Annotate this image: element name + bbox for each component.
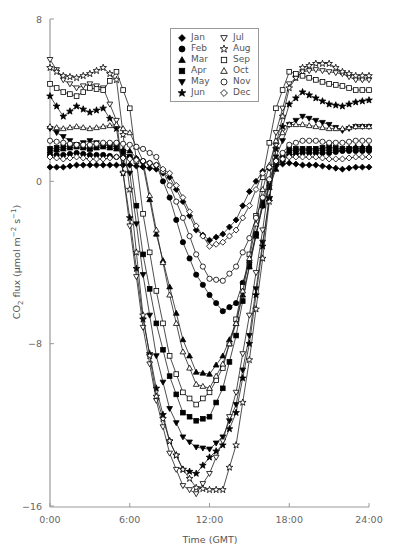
legend-item-sep: Sep xyxy=(219,54,251,65)
triangle-open-icon xyxy=(219,66,229,76)
series-jan xyxy=(47,160,372,243)
legend-item-aug: Aug xyxy=(219,43,251,54)
legend-item-oct: Oct xyxy=(219,65,251,76)
legend-item-dec: Dec xyxy=(219,87,251,98)
triangle-down-open-icon xyxy=(219,33,229,43)
square-filled-icon xyxy=(177,66,187,76)
x-axis: 0:006:0012:0018:0024:00 xyxy=(39,503,382,525)
circle-filled-icon xyxy=(177,44,187,54)
triangle-down-filled-icon xyxy=(177,77,187,87)
legend-label: Oct xyxy=(233,65,249,76)
circle-open-icon xyxy=(219,77,229,87)
legend-item-jun: Jun xyxy=(177,87,210,98)
legend-label: Jul xyxy=(233,32,244,43)
series-apr xyxy=(48,142,372,423)
legend-label: Aug xyxy=(233,43,251,54)
legend-item-feb: Feb xyxy=(177,43,210,54)
x-tick-label: 18:00 xyxy=(276,514,303,525)
legend-label: Mar xyxy=(191,54,208,65)
legend-label: Feb xyxy=(191,43,207,54)
legend-item-jan: Jan xyxy=(177,32,210,43)
x-tick-label: 0:00 xyxy=(39,514,60,525)
legend-item-jul: Jul xyxy=(219,32,251,43)
legend-column-1: JanFebMarAprMayJun xyxy=(177,32,210,98)
y-axis: 80−8−16 xyxy=(22,14,54,512)
legend-label: Jan xyxy=(191,32,205,43)
diamond-filled-icon xyxy=(177,33,187,43)
series-oct xyxy=(47,122,372,391)
square-open-icon xyxy=(219,55,229,65)
diamond-open-icon xyxy=(219,88,229,98)
legend-item-may: May xyxy=(177,76,210,87)
legend: JanFebMarAprMayJun JulAugSepOctNovDec xyxy=(170,28,259,102)
series-mar xyxy=(47,144,372,376)
x-tick-label: 12:00 xyxy=(196,514,223,525)
x-tick-label: 6:00 xyxy=(119,514,140,525)
legend-item-apr: Apr xyxy=(177,65,210,76)
legend-label: May xyxy=(191,76,210,87)
legend-label: Apr xyxy=(191,65,207,76)
triangle-filled-icon xyxy=(177,55,187,65)
legend-item-mar: Mar xyxy=(177,54,210,65)
plot-series xyxy=(47,58,373,497)
y-axis-title: CO2 flux (µmol m−2 s−1) xyxy=(10,205,25,319)
legend-label: Sep xyxy=(233,54,250,65)
x-tick-label: 24:00 xyxy=(355,514,382,525)
legend-item-nov: Nov xyxy=(219,76,251,87)
y-tick-label: 8 xyxy=(36,14,42,25)
legend-column-2: JulAugSepOctNovDec xyxy=(219,32,251,98)
series-feb xyxy=(47,148,371,314)
y-tick-label: 0 xyxy=(36,176,42,187)
legend-label: Dec xyxy=(233,87,250,98)
legend-label: Nov xyxy=(233,76,251,87)
star-filled-icon xyxy=(177,88,187,98)
legend-label: Jun xyxy=(191,87,205,98)
y-tick-label: −16 xyxy=(22,501,42,512)
y-tick-label: −8 xyxy=(28,338,42,349)
x-axis-title: Time (GMT) xyxy=(181,534,237,545)
star-open-icon xyxy=(219,44,229,54)
